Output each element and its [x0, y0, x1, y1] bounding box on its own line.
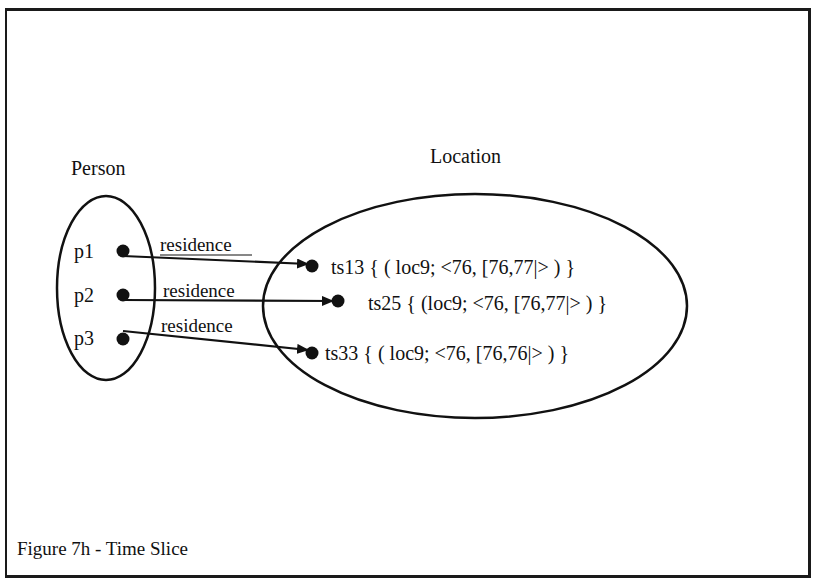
relation-p3-ts33[interactable]: residence [123, 315, 308, 350]
figure-caption: Figure 7h - Time Slice [17, 538, 188, 560]
node-dot-icon [306, 260, 319, 273]
person-node-p3[interactable]: p3 [74, 327, 130, 350]
node-dot-icon [332, 295, 345, 308]
node-label: p3 [74, 327, 94, 350]
node-label: ts13 { ( loc9; <76, [76,77|> ) } [331, 256, 575, 279]
node-label: p1 [74, 240, 94, 263]
person-set-title: Person [71, 157, 125, 179]
node-label: ts25 { (loc9; <76, [76,77|> ) } [368, 292, 607, 315]
location-node-ts25[interactable]: ts25 { (loc9; <76, [76,77|> ) } [332, 292, 608, 315]
person-ellipse [57, 196, 155, 380]
relation-label: residence [160, 234, 232, 255]
location-node-ts13[interactable]: ts13 { ( loc9; <76, [76,77|> ) } [306, 256, 576, 279]
location-set: Location ts13 { ( loc9; <76, [76,77|> ) … [263, 145, 687, 418]
node-dot-icon [117, 333, 130, 346]
node-label: ts33 { ( loc9; <76, [76,76|> ) } [325, 342, 569, 365]
relation-label: residence [161, 315, 233, 336]
location-set-title: Location [430, 145, 501, 167]
node-label: p2 [74, 284, 94, 307]
time-slice-diagram: Person p1 p2 p3 Location ts13 { ( loc9; … [0, 0, 818, 586]
location-node-ts33[interactable]: ts33 { ( loc9; <76, [76,76|> ) } [306, 342, 570, 365]
person-node-p1[interactable]: p1 [74, 240, 130, 263]
person-node-p2[interactable]: p2 [74, 284, 130, 307]
person-set: Person p1 p2 p3 [57, 157, 155, 380]
node-dot-icon [306, 347, 319, 360]
relation-label: residence [163, 280, 235, 301]
